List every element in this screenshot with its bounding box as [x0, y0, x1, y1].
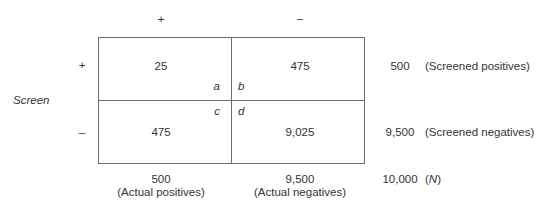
cell-d-label: d — [238, 104, 244, 118]
grand-total-variable: N — [429, 173, 437, 185]
cell-a-label: a — [214, 79, 220, 93]
cell-c-label: c — [214, 104, 220, 118]
row-total-positive-label: (Screened positives) — [425, 59, 530, 73]
row-header-positive: + — [79, 59, 86, 71]
cell-b-label: b — [238, 79, 244, 93]
column-total-positive-value: 500 — [151, 172, 170, 186]
row-total-positive-value: 500 — [390, 59, 409, 73]
column-header-negative: – — [297, 12, 303, 24]
grand-total-paren-close: ) — [437, 173, 441, 185]
column-header-positive: + — [158, 13, 165, 25]
row-header-negative: – — [79, 126, 85, 138]
table-right-border — [364, 37, 365, 164]
cell-c-value: 475 — [151, 125, 170, 139]
row-total-negative-value: 9,500 — [386, 125, 415, 139]
grand-total-label: (N) — [425, 172, 441, 186]
table-center-divider — [231, 37, 232, 164]
cell-b-value: 475 — [290, 59, 309, 73]
column-total-positive-label: (Actual positives) — [117, 185, 205, 199]
cell-d-value: 9,025 — [286, 125, 315, 139]
row-total-negative-label: (Screened negatives) — [425, 125, 534, 139]
table-left-border — [98, 37, 99, 164]
grand-total-value: 10,000 — [382, 172, 417, 186]
column-total-negative-value: 9,500 — [286, 172, 315, 186]
column-total-negative-label: (Actual negatives) — [254, 185, 346, 199]
cell-a-value: 25 — [155, 59, 168, 73]
row-axis-label: Screen — [13, 94, 49, 106]
